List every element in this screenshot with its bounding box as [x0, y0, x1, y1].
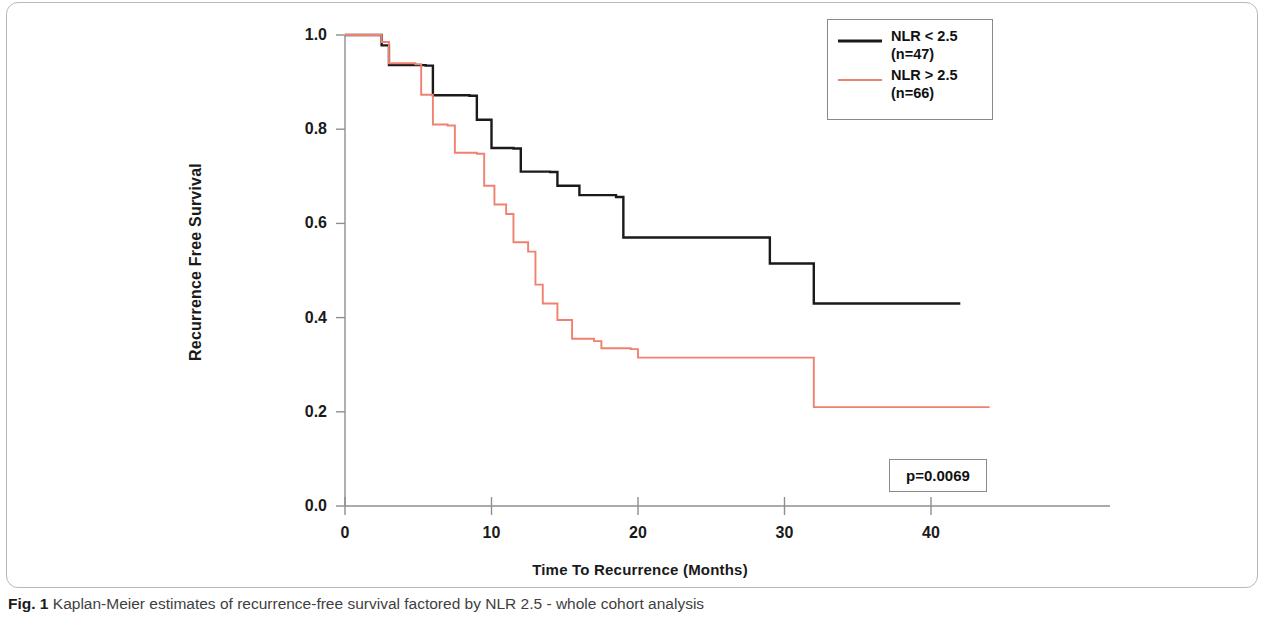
x-axis-title: Time To Recurrence (Months) [532, 561, 748, 578]
y-tick-marks [336, 35, 345, 506]
figure-container: Recurrence Free Survival Time To Recurre… [0, 0, 1265, 630]
legend-label-nlr-high-line1: NLR > 2.5 [891, 67, 957, 83]
legend-entry-nlr-low: NLR < 2.5 (n=47) [838, 28, 992, 63]
figure-caption-prefix: Fig. 1 [8, 595, 48, 612]
p-value-box: p=0.0069 [889, 459, 987, 492]
legend: NLR < 2.5 (n=47) NLR > 2.5 (n=66) [827, 19, 993, 120]
legend-label-nlr-high: NLR > 2.5 (n=66) [891, 67, 957, 102]
legend-label-nlr-low-line1: NLR < 2.5 [891, 28, 957, 44]
y-axis-title: Recurrence Free Survival [187, 163, 205, 361]
x-tick-label: 10 [483, 524, 501, 542]
y-tick-label: 0.8 [265, 120, 327, 138]
legend-label-nlr-low-line2: (n=47) [891, 46, 934, 62]
y-tick-label: 0.6 [265, 214, 327, 232]
y-tick-label: 0.4 [265, 309, 327, 327]
x-tick-label: 20 [629, 524, 647, 542]
legend-swatch-red-icon [838, 72, 882, 88]
figure-caption: Fig. 1 Kaplan-Meier estimates of recurre… [8, 594, 1258, 614]
y-tick-label: 0.2 [265, 403, 327, 421]
legend-entry-nlr-high: NLR > 2.5 (n=66) [838, 67, 992, 102]
y-tick-label: 1.0 [265, 26, 327, 44]
plot-axes [336, 35, 1110, 515]
x-tick-label: 30 [776, 524, 794, 542]
figure-caption-text: Kaplan-Meier estimates of recurrence-fre… [53, 595, 704, 612]
x-tick-label: 40 [922, 524, 940, 542]
legend-label-nlr-low: NLR < 2.5 (n=47) [891, 28, 957, 63]
legend-label-nlr-high-line2: (n=66) [891, 85, 934, 101]
legend-swatch-black-icon [838, 33, 882, 49]
y-tick-label: 0.0 [265, 497, 327, 515]
x-tick-label: 0 [341, 524, 350, 542]
